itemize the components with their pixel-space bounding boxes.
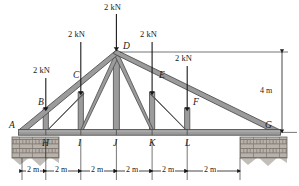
load-label-f: 2 kN	[175, 54, 192, 63]
load-label-c: 2 kN	[68, 30, 85, 39]
dim-label-height: 4 m	[259, 87, 273, 95]
load-label-b: 2 kN	[33, 66, 50, 75]
dim-label-bay-5: 2 m	[161, 166, 175, 174]
joint-label-h: H	[42, 139, 49, 149]
joint-label-g: G	[265, 121, 272, 131]
dim-label-bay-1: 2 m	[26, 166, 40, 174]
joint-label-i: I	[78, 139, 81, 149]
dim-label-bay-2: 2 m	[54, 166, 68, 174]
joint-label-l: L	[185, 139, 190, 149]
support-block-a	[12, 137, 59, 166]
joint-label-c: C	[73, 71, 79, 81]
support-block-g	[240, 137, 287, 166]
joint-label-k: K	[149, 139, 155, 149]
dim-label-bay-3: 2 m	[90, 166, 104, 174]
joint-label-e: E	[159, 71, 165, 81]
joint-label-d: D	[123, 42, 130, 52]
joint-label-f: F	[193, 98, 199, 108]
dim-label-bay-4: 2 m	[125, 166, 139, 174]
load-label-e: 2 kN	[140, 30, 157, 39]
joint-label-a: A	[9, 121, 15, 131]
load-label-d: 2 kN	[104, 3, 121, 12]
joint-label-j: J	[113, 139, 117, 149]
bottom-chord	[19, 130, 281, 136]
truss-diagram	[0, 0, 299, 186]
joint-label-b: B	[38, 98, 44, 108]
dim-label-bay-6: 2 m	[203, 166, 217, 174]
